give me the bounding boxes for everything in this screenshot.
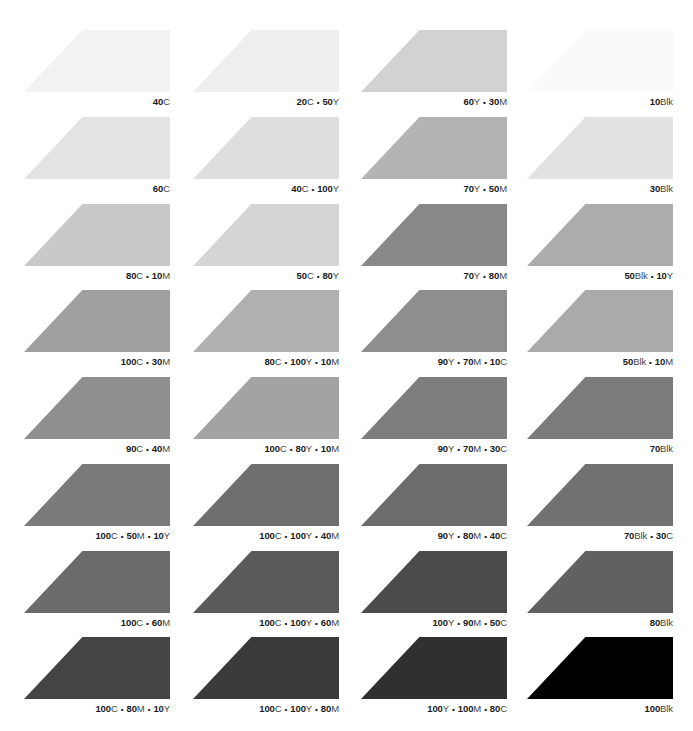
ink-percentage: 80: [322, 270, 332, 281]
bullet-separator: •: [148, 705, 151, 714]
bullet-separator: •: [457, 358, 460, 367]
color-swatch: [193, 464, 339, 526]
ink-channel: Blk: [660, 443, 673, 454]
color-swatch: [24, 637, 170, 699]
swatch-cell: 90Y•70M•10C: [361, 290, 509, 374]
color-swatch: [527, 117, 673, 179]
ink-percentage: 90: [438, 356, 448, 367]
swatch-label: 70Y•50M: [463, 183, 507, 194]
ink-percentage: 100: [264, 443, 280, 454]
ink-channel: M: [162, 356, 170, 367]
ink-channel: Y: [306, 443, 312, 454]
color-swatch: [527, 290, 673, 352]
color-swatch-grid: 40C20C•50Y60Y•30M10Blk60C40C•100Y70Y•50M…: [0, 0, 693, 731]
ink-percentage: 50: [297, 270, 307, 281]
bullet-separator: •: [650, 532, 653, 541]
ink-percentage: 50: [126, 530, 136, 541]
ink-percentage: 10: [321, 443, 331, 454]
ink-channel: M: [473, 703, 481, 714]
bullet-separator: •: [146, 445, 149, 454]
bullet-separator: •: [457, 619, 460, 628]
ink-percentage: 80: [489, 270, 499, 281]
ink-channel: C: [307, 270, 314, 281]
swatch-cell: 100C•80M•10Y: [24, 637, 172, 721]
ink-percentage: 50: [623, 356, 633, 367]
ink-percentage: 80: [126, 703, 136, 714]
swatch-cell: 50Blk•10M: [527, 290, 675, 374]
swatch-cell: 80Blk: [527, 551, 675, 635]
ink-percentage: 90: [438, 443, 448, 454]
ink-percentage: 100: [317, 183, 333, 194]
bullet-separator: •: [484, 619, 487, 628]
bullet-separator: •: [457, 445, 460, 454]
ink-percentage: 10: [656, 270, 666, 281]
ink-percentage: 80: [264, 356, 274, 367]
color-swatch: [24, 117, 170, 179]
swatch-label: 60Y•30M: [463, 96, 507, 107]
ink-percentage: 40: [321, 530, 331, 541]
bullet-separator: •: [121, 532, 124, 541]
ink-percentage: 100: [95, 703, 111, 714]
ink-percentage: 70: [650, 443, 660, 454]
swatch-label: 100C•50M•10Y: [95, 530, 170, 541]
swatch-label: 100C•80M•10Y: [95, 703, 170, 714]
ink-percentage: 50: [322, 96, 332, 107]
ink-percentage: 70: [463, 270, 473, 281]
swatch-cell: 70Y•50M: [361, 117, 509, 201]
ink-percentage: 80: [295, 443, 305, 454]
color-swatch: [193, 551, 339, 613]
ink-percentage: 30: [490, 443, 500, 454]
ink-channel: Blk: [660, 183, 673, 194]
ink-percentage: 10: [490, 356, 500, 367]
ink-channel: C: [136, 270, 143, 281]
swatch-cell: 100C•100Y•80M: [193, 637, 341, 721]
ink-percentage: 60: [153, 183, 163, 194]
swatch-label: 70Y•80M: [463, 270, 507, 281]
ink-channel: C: [136, 356, 143, 367]
ink-channel: Y: [448, 617, 454, 628]
swatch-cell: 90Y•70M•30C: [361, 377, 509, 461]
ink-percentage: 60: [152, 617, 162, 628]
bullet-separator: •: [315, 532, 318, 541]
ink-channel: C: [500, 356, 507, 367]
ink-percentage: 100: [290, 530, 306, 541]
bullet-separator: •: [483, 98, 486, 107]
swatch-label: 40C•100Y: [291, 183, 339, 194]
color-swatch: [193, 30, 339, 92]
ink-percentage: 30: [650, 183, 660, 194]
color-swatch: [527, 551, 673, 613]
ink-percentage: 80: [490, 703, 500, 714]
ink-channel: Y: [306, 703, 312, 714]
color-swatch: [361, 464, 507, 526]
ink-percentage: 80: [321, 703, 331, 714]
ink-channel: Y: [443, 703, 449, 714]
ink-channel: M: [665, 356, 673, 367]
bullet-separator: •: [484, 358, 487, 367]
color-swatch: [193, 290, 339, 352]
ink-percentage: 10: [153, 703, 163, 714]
swatch-cell: 40C•100Y: [193, 117, 341, 201]
color-swatch: [361, 551, 507, 613]
ink-percentage: 20: [297, 96, 307, 107]
swatch-label: 70Blk•30C: [624, 530, 673, 541]
color-swatch: [527, 204, 673, 266]
swatch-label: 100C•100Y•40M: [259, 530, 339, 541]
bullet-separator: •: [146, 272, 149, 281]
swatch-label: 100C•60M: [121, 617, 170, 628]
bullet-separator: •: [651, 272, 654, 281]
bullet-separator: •: [452, 705, 455, 714]
bullet-separator: •: [285, 532, 288, 541]
ink-percentage: 80: [650, 617, 660, 628]
ink-percentage: 50: [624, 270, 634, 281]
color-swatch: [361, 30, 507, 92]
swatch-label: 50C•80Y: [297, 270, 339, 281]
swatch-label: 100C•80Y•10M: [264, 443, 339, 454]
ink-channel: C: [275, 703, 282, 714]
ink-channel: C: [275, 356, 282, 367]
ink-channel: M: [162, 443, 170, 454]
bullet-separator: •: [146, 358, 149, 367]
bullet-separator: •: [285, 358, 288, 367]
color-swatch: [527, 377, 673, 439]
ink-channel: Blk: [635, 270, 648, 281]
ink-channel: C: [275, 530, 282, 541]
